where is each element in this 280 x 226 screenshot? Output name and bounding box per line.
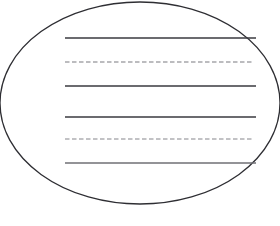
page-background — [0, 0, 280, 226]
worksheet-canvas — [0, 0, 280, 226]
oval-writing-template — [0, 0, 280, 226]
